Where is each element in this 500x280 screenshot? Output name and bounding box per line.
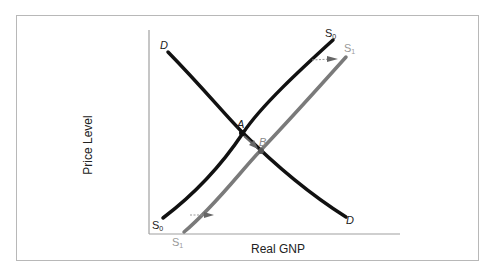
point-a-marker xyxy=(239,130,245,136)
y-axis-label: Price Level xyxy=(81,100,95,190)
label-d-top: D xyxy=(160,39,168,51)
label-s1-top: S1 xyxy=(344,42,355,55)
label-point-a: A xyxy=(236,118,244,130)
movement-arrow-a-to-b xyxy=(244,136,258,149)
label-d-bottom: D xyxy=(346,214,354,226)
point-b-marker xyxy=(258,148,264,154)
label-s1-bottom: S1 xyxy=(172,236,183,249)
x-axis-label: Real GNP xyxy=(238,242,318,256)
label-point-b: B xyxy=(259,136,266,148)
ad-as-diagram: D D A B S0 S1 S0 S1 xyxy=(0,0,500,280)
label-s0-bottom: S0 xyxy=(152,219,163,232)
label-s0-top: S0 xyxy=(325,27,336,40)
